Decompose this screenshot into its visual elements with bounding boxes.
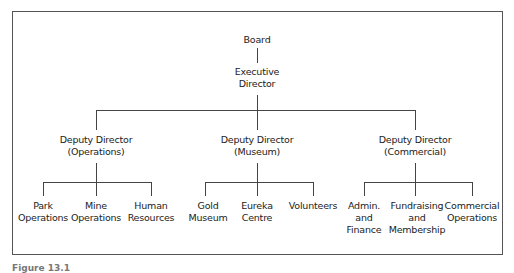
connector-commercial-drop <box>415 110 416 130</box>
node-label-line2: (Operations) <box>60 146 133 158</box>
node-label: Board <box>244 34 271 45</box>
node-label-line2: (Commercial) <box>379 146 452 158</box>
node-board: Board <box>244 34 271 46</box>
connector-ops-child-1 <box>43 182 44 196</box>
node-label-line2: Operations <box>445 212 500 224</box>
node-label-line2: and <box>389 212 446 224</box>
node-label-line3: Membership <box>389 224 446 236</box>
connector-ops-child-3 <box>151 182 152 196</box>
node-fundraising-membership: Fundraising and Membership <box>389 200 446 236</box>
connector-museum-child-1 <box>205 182 206 196</box>
node-label-line3: Finance <box>347 224 382 236</box>
node-label-line1: Mine <box>71 200 121 212</box>
node-label-line1: Commercial <box>445 200 500 212</box>
node-gold-museum: Gold Museum <box>188 200 227 224</box>
node-label-line1: Fundraising <box>389 200 446 212</box>
node-deputy-museum: Deputy Director (Museum) <box>221 134 294 158</box>
node-admin-finance: Admin. and Finance <box>347 200 382 236</box>
node-label-line1: Volunteers <box>289 200 338 212</box>
node-label-line1: Gold <box>188 200 227 212</box>
connector-board-exec <box>257 48 258 63</box>
node-volunteers: Volunteers <box>289 200 338 212</box>
figure-caption: Figure 13.1 <box>12 263 70 273</box>
node-human-resources: Human Resources <box>128 200 175 224</box>
node-label-line1: Deputy Director <box>60 134 133 146</box>
connector-exec-down <box>257 95 258 110</box>
node-label-line1: Deputy Director <box>379 134 452 146</box>
node-label-line1: Human <box>128 200 175 212</box>
node-label-line1: Executive <box>235 66 279 78</box>
node-label-line1: Eureka <box>241 200 273 212</box>
connector-deputies-bar <box>96 110 416 111</box>
node-executive-director: Executive Director <box>235 66 279 90</box>
node-label-line2: Museum <box>188 212 227 224</box>
connector-ops-down <box>96 163 97 182</box>
node-park-operations: Park Operations <box>18 200 68 224</box>
node-eureka-centre: Eureka Centre <box>241 200 273 224</box>
node-label-line2: Operations <box>71 212 121 224</box>
connector-commercial-bar <box>364 182 472 183</box>
node-commercial-operations: Commercial Operations <box>445 200 500 224</box>
connector-ops-child-2 <box>96 182 97 196</box>
node-label-line2: Operations <box>18 212 68 224</box>
connector-commercial-down <box>415 163 416 182</box>
connector-ops-bar <box>43 182 151 183</box>
node-label-line2: Centre <box>241 212 273 224</box>
connector-commercial-child-3 <box>472 182 473 196</box>
node-label-line2: Director <box>235 78 279 90</box>
node-deputy-commercial: Deputy Director (Commercial) <box>379 134 452 158</box>
node-mine-operations: Mine Operations <box>71 200 121 224</box>
connector-museum-bar <box>205 182 313 183</box>
node-label-line2: Resources <box>128 212 175 224</box>
connector-commercial-child-2 <box>415 182 416 196</box>
node-label-line1: Admin. <box>347 200 382 212</box>
node-label-line2: and <box>347 212 382 224</box>
node-label-line1: Park <box>18 200 68 212</box>
connector-museum-drop <box>257 110 258 130</box>
connector-museum-child-2 <box>257 182 258 196</box>
node-deputy-operations: Deputy Director (Operations) <box>60 134 133 158</box>
connector-museum-child-3 <box>313 182 314 196</box>
connector-ops-drop <box>96 110 97 130</box>
connector-commercial-child-1 <box>364 182 365 196</box>
node-label-line2: (Museum) <box>221 146 294 158</box>
connector-museum-down <box>257 163 258 182</box>
node-label-line1: Deputy Director <box>221 134 294 146</box>
